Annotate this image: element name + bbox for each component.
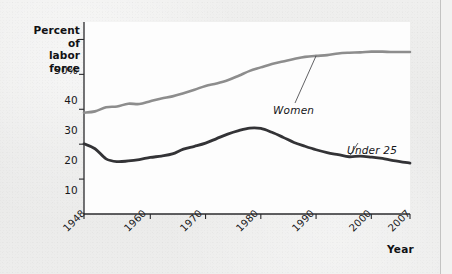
leader-line-women (295, 56, 316, 103)
series-line-under-25 (84, 128, 410, 163)
x-axis-ticks (84, 214, 410, 219)
chart-svg (0, 0, 452, 274)
series-line-women (84, 52, 410, 113)
axis-lines (84, 22, 410, 214)
y-axis-ticks (79, 39, 84, 179)
leader-line-under-25 (349, 143, 358, 157)
